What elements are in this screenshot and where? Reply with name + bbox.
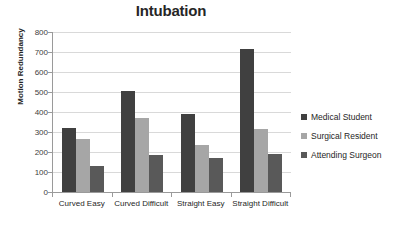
bar-group xyxy=(240,32,282,192)
x-axis-tick-label: Curved Easy xyxy=(54,199,110,209)
y-axis-tick-mark xyxy=(48,52,52,53)
legend-item-label: Surgical Resident xyxy=(311,131,378,141)
bar[interactable] xyxy=(268,154,282,192)
y-axis-tick-label: 500 xyxy=(18,88,48,97)
legend-item[interactable]: Medical Student xyxy=(301,112,381,122)
bar[interactable] xyxy=(121,91,135,192)
bar[interactable] xyxy=(135,118,149,192)
y-axis-tick-mark xyxy=(48,132,52,133)
legend-item-label: Medical Student xyxy=(311,112,372,122)
bar[interactable] xyxy=(240,49,254,192)
y-axis-tick-mark xyxy=(48,172,52,173)
x-axis-tick-mark xyxy=(112,193,113,197)
legend-item-label: Attending Surgeon xyxy=(311,150,381,160)
legend-swatch-icon xyxy=(301,114,307,120)
bar-group xyxy=(62,32,104,192)
legend-item[interactable]: Attending Surgeon xyxy=(301,150,381,160)
chart-legend: Medical StudentSurgical ResidentAttendin… xyxy=(301,112,381,160)
bar-group xyxy=(181,32,223,192)
x-axis-tick-label: Straight Difficult xyxy=(232,199,288,209)
y-axis-tick-mark xyxy=(48,72,52,73)
x-axis-tick-mark xyxy=(290,193,291,197)
bar[interactable] xyxy=(62,128,76,192)
y-axis-tick-mark xyxy=(48,152,52,153)
plot-area xyxy=(52,32,291,193)
bars-layer xyxy=(53,32,291,192)
bar-group xyxy=(121,32,163,192)
legend-item[interactable]: Surgical Resident xyxy=(301,131,381,141)
y-axis-tick-label: 600 xyxy=(18,68,48,77)
bar-chart: Intubation Motion Redundancy Curved Easy… xyxy=(0,0,414,234)
bar[interactable] xyxy=(181,114,195,192)
y-axis-tick-mark xyxy=(48,92,52,93)
bar[interactable] xyxy=(149,155,163,192)
bar[interactable] xyxy=(209,158,223,192)
y-axis-tick-label: 700 xyxy=(18,48,48,57)
chart-title: Intubation xyxy=(52,2,290,19)
y-axis-tick-label: 200 xyxy=(18,148,48,157)
bar[interactable] xyxy=(195,145,209,192)
y-axis-tick-mark xyxy=(48,112,52,113)
x-axis-tick-mark xyxy=(52,193,53,197)
bar[interactable] xyxy=(90,166,104,192)
bar[interactable] xyxy=(254,129,268,192)
x-axis-tick-mark xyxy=(171,193,172,197)
y-axis-tick-mark xyxy=(48,32,52,33)
y-axis-tick-label: 0 xyxy=(18,188,48,197)
y-axis-tick-label: 300 xyxy=(18,128,48,137)
x-axis-tick-mark xyxy=(231,193,232,197)
y-axis-tick-label: 100 xyxy=(18,168,48,177)
y-axis-tick-label: 800 xyxy=(18,28,48,37)
legend-swatch-icon xyxy=(301,133,307,139)
y-axis-tick-label: 400 xyxy=(18,108,48,117)
bar[interactable] xyxy=(76,139,90,192)
x-axis-tick-label: Straight Easy xyxy=(173,199,229,209)
legend-swatch-icon xyxy=(301,152,307,158)
x-axis-tick-labels: Curved EasyCurved DifficultStraight Easy… xyxy=(52,199,290,209)
x-axis-tick-label: Curved Difficult xyxy=(113,199,169,209)
